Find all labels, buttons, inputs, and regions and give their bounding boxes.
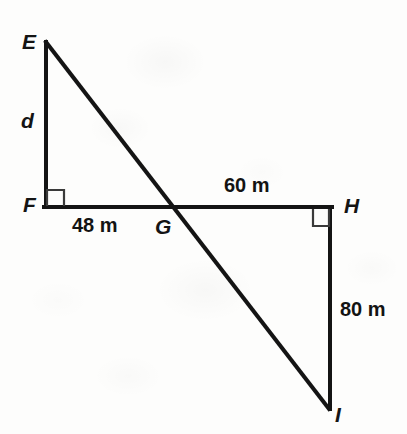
vertex-label-G: G <box>155 216 171 237</box>
figure-line-art <box>0 0 407 434</box>
vertex-label-E: E <box>22 31 36 52</box>
vertex-label-H: H <box>344 195 359 216</box>
right-angle-marker-F <box>47 190 64 206</box>
geometry-figure: E F G H I d 48 m 60 m 80 m <box>0 0 407 434</box>
right-angle-marker-H <box>313 209 329 226</box>
vertex-label-F: F <box>23 194 36 215</box>
measure-label-fg: 48 m <box>72 215 118 235</box>
vertex-label-I: I <box>335 404 341 425</box>
measure-label-gh: 60 m <box>224 175 270 195</box>
measure-label-hi: 80 m <box>340 299 386 319</box>
measure-label-d: d <box>21 110 34 131</box>
